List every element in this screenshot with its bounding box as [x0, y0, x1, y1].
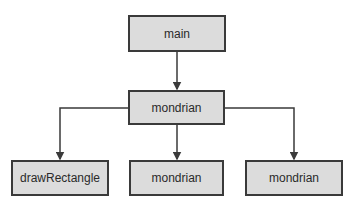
node-mondrian-middle: mondrian [129, 160, 224, 196]
node-mondrian-root: mondrian [128, 90, 225, 125]
node-label: drawRectangle [20, 171, 100, 185]
call-tree-diagram: main mondrian drawRectangle mondrian mon… [0, 0, 357, 207]
node-label: main [164, 27, 190, 41]
edge-mondrian-to-mondrian-right [225, 108, 294, 159]
node-label: mondrian [151, 101, 201, 115]
node-main: main [128, 15, 226, 52]
node-drawrectangle: drawRectangle [11, 160, 109, 196]
node-label: mondrian [269, 171, 319, 185]
node-label: mondrian [151, 171, 201, 185]
edge-mondrian-to-drawrectangle [60, 108, 128, 159]
node-mondrian-right: mondrian [245, 160, 343, 196]
